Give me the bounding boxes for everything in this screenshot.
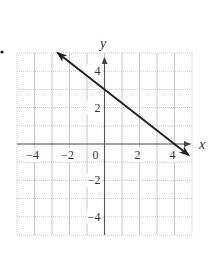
- x-tick-label: −2: [61, 148, 74, 162]
- y-tick-label: 4: [95, 64, 101, 78]
- x-tick-label: 0: [93, 148, 99, 162]
- y-tick-label: 2: [95, 101, 101, 115]
- problem-bullet: [0, 50, 3, 53]
- axes: [17, 58, 190, 235]
- coordinate-plane-chart: −4−202442−2−4 x y: [0, 0, 215, 263]
- x-tick-label: −4: [26, 148, 39, 162]
- y-tick-label: −4: [88, 210, 101, 224]
- x-axis-label: x: [198, 137, 206, 152]
- y-axis-label: y: [98, 36, 107, 51]
- line-series: [58, 53, 189, 155]
- data-series: [58, 53, 189, 155]
- x-tick-label: 2: [135, 148, 141, 162]
- y-tick-label: −2: [88, 173, 101, 187]
- x-tick-label: 4: [170, 148, 176, 162]
